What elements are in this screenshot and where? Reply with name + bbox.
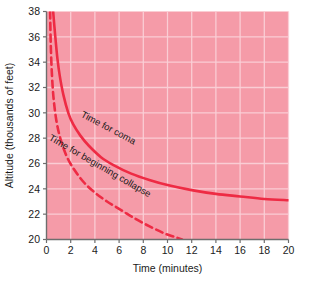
y-axis-title: Altitude (thousands of feet) [3, 63, 15, 189]
y-tick-label: 34 [28, 56, 40, 68]
y-tick-label: 32 [28, 81, 40, 93]
y-tick-label: 26 [28, 157, 40, 169]
x-tick-label: 18 [258, 244, 270, 256]
x-tick-label: 10 [162, 244, 174, 256]
x-tick-label: 16 [234, 244, 246, 256]
x-tick-label: 20 [283, 244, 295, 256]
x-tick-label: 6 [116, 244, 122, 256]
x-tick-label: 14 [210, 244, 222, 256]
y-tick-label: 38 [28, 5, 40, 17]
y-tick-label: 28 [28, 132, 40, 144]
x-axis-title: Time (minutes) [133, 262, 203, 274]
y-tick-label: 30 [28, 107, 40, 119]
x-tick-label: 4 [92, 244, 98, 256]
x-tick-label: 0 [44, 244, 50, 256]
x-tick-label: 12 [186, 244, 198, 256]
y-tick-label: 22 [28, 208, 40, 220]
y-tick-label: 20 [28, 233, 40, 245]
x-tick-label: 8 [140, 244, 146, 256]
y-tick-label: 36 [28, 31, 40, 43]
y-tick-label: 24 [28, 183, 40, 195]
chart-figure: Time for comaTime for beginning collapse… [0, 0, 309, 281]
x-tick-label: 2 [68, 244, 74, 256]
